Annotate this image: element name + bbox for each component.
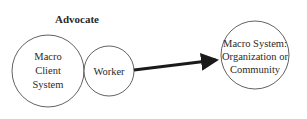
node-label-line: Worker [93,66,125,77]
advocate-diagram: Advocate Macro Client System Worker Macr… [0,0,307,119]
node-label-line: Organization or [222,51,288,62]
node-label-line: Community [230,64,281,75]
node-macro-client-system: Macro Client System [12,35,84,107]
node-label-line: Client [35,65,61,76]
node-label-line: Macro System: [223,38,287,49]
node-macro-system-target: Macro System: Organization or Community [221,21,289,89]
diagram-title: Advocate [55,13,99,25]
node-label-line: Macro [34,51,61,62]
arrow-worker-to-macro-system [134,60,216,70]
node-label-line: System [33,79,64,90]
node-worker: Worker [84,46,134,96]
